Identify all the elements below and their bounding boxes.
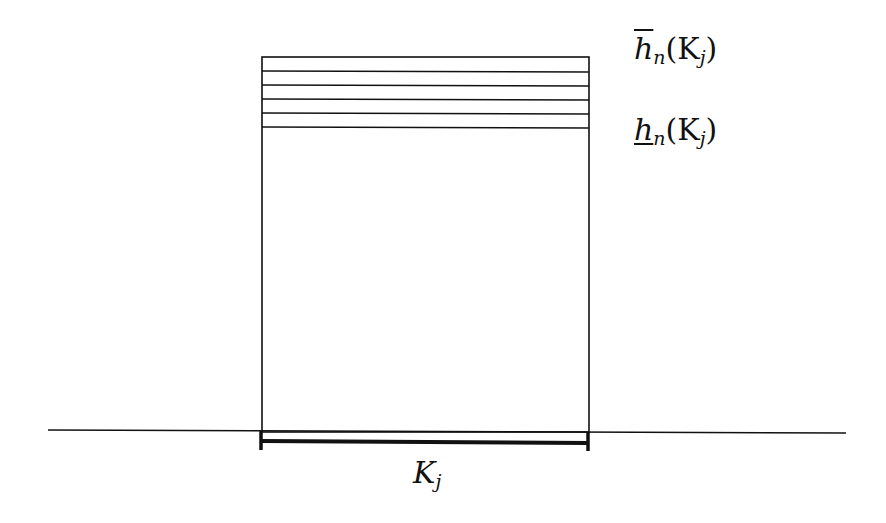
upper-h: h — [634, 31, 653, 66]
interval-k: K — [413, 455, 435, 490]
lower-close: ) — [706, 112, 718, 147]
lower-arg: (K — [666, 112, 700, 147]
lower-h: h — [634, 112, 653, 147]
interval-sub-j: j — [435, 470, 441, 492]
upper-arg: (K — [666, 31, 700, 66]
upper-close: ) — [706, 31, 718, 66]
lower-height-label: hn(Kj) — [634, 115, 717, 148]
upper-sub-n: n — [653, 46, 665, 68]
lower-sub-n: n — [653, 127, 665, 149]
diagram-canvas — [0, 0, 886, 523]
stripe-lines — [262, 71, 589, 128]
interval-label: Kj — [413, 458, 441, 491]
upper-height-label: hn(Kj) — [634, 34, 717, 67]
interval-bracket — [261, 430, 588, 451]
